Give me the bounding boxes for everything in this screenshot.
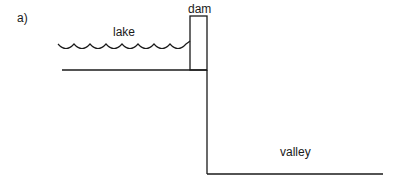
valley-label: valley bbox=[280, 145, 311, 159]
lake-waves bbox=[58, 41, 190, 49]
diagram-canvas: a) dam lake valley bbox=[0, 0, 401, 183]
lake-label: lake bbox=[113, 25, 135, 39]
panel-label: a) bbox=[17, 11, 28, 25]
dam-structure bbox=[190, 16, 207, 70]
dam-label: dam bbox=[188, 2, 211, 16]
